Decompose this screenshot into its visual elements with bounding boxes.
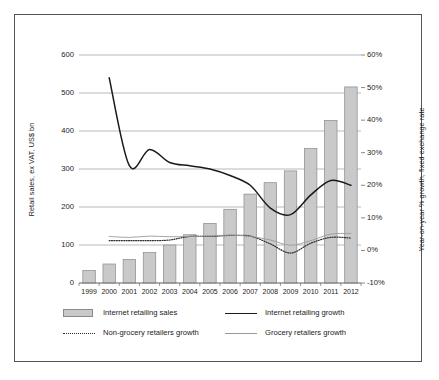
bar-2001 [123,259,135,283]
legend-label-internet-retailing-growth: Internet retailing growth [265,308,344,317]
bar-2002 [143,253,155,283]
y-axis-tick-label: 500 [48,88,74,97]
y2-axis-tick-label: 20% [367,180,395,189]
bar-2009 [284,171,296,283]
chart-frame: Retail sales, ex VAT, US$ bn Year-on-yea… [14,14,422,362]
legend-label-internet-retailing-sales: Internet retailing sales [103,308,177,317]
bar-2004 [184,235,196,283]
bar-2011 [325,120,337,283]
bar-2010 [304,148,316,283]
bar-2007 [244,194,256,283]
legend-label-grocery-retailers-growth: Grocery retailers growth [265,328,346,337]
y2-axis-tick-label: 60% [367,50,395,59]
y-axis-tick-label: 400 [48,126,74,135]
bar-2005 [204,223,216,283]
y2-axis-tick-label: 50% [367,83,395,92]
y2-axis-tick-label: 0% [367,245,395,254]
bar-2006 [224,209,236,283]
y-axis-tick-label: 200 [48,202,74,211]
y2-axis-tick-label: 10% [367,213,395,222]
y-axis-tick-label: 300 [48,164,74,173]
y-axis-tick-label: 600 [48,50,74,59]
bar-2003 [163,245,175,283]
bar-2000 [103,264,115,283]
legend-swatch-grey-line [225,333,257,334]
legend-label-non-grocery-retailers-growth: Non-grocery retailers growth [103,328,199,337]
bar-1999 [83,270,95,283]
bar-2008 [264,183,276,283]
legend-swatch-solid-line [225,313,257,314]
y-axis-tick-label: 100 [48,240,74,249]
legend-swatch-bar [63,309,93,317]
y2-axis-tick-label: 30% [367,148,395,157]
x-axis-tick-label: 2012 [339,288,363,295]
y2-axis-tick-label: 40% [367,115,395,124]
legend-swatch-dotted-line [63,333,95,334]
y2-axis-tick-label: -10% [367,278,395,287]
y-axis-tick-label: 0 [48,278,74,287]
